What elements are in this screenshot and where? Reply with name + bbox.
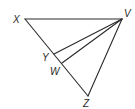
label-Y: Y: [42, 52, 50, 63]
segment-XZ: [25, 19, 88, 96]
label-W: W: [50, 66, 61, 77]
segment-VY: [54, 19, 122, 54]
segments-group: [25, 19, 122, 96]
geometry-diagram: X V Y W Z: [0, 0, 135, 109]
segment-VW: [62, 19, 122, 63]
segment-VZ: [88, 19, 122, 96]
label-X: X: [12, 14, 20, 25]
label-V: V: [124, 8, 132, 19]
label-Z: Z: [82, 98, 90, 109]
